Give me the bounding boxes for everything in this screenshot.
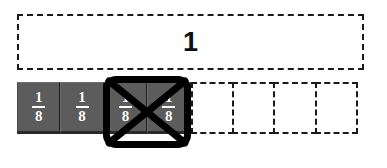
part-cell-7[interactable] (273, 82, 316, 134)
selection-box[interactable] (103, 76, 191, 148)
fraction-one-eighth: 1 8 (76, 90, 89, 125)
part-cell-5[interactable] (191, 82, 234, 134)
fraction-strip-model: 1 1 8 1 8 1 8 1 (0, 0, 387, 168)
part-cell-8[interactable] (315, 82, 358, 134)
numerator: 1 (78, 90, 86, 105)
part-cell-2[interactable]: 1 8 (60, 82, 103, 134)
part-cell-1[interactable]: 1 8 (17, 82, 60, 134)
part-cell-6[interactable] (232, 82, 275, 134)
denominator: 8 (35, 109, 43, 124)
whole-bar: 1 (17, 14, 364, 70)
numerator: 1 (35, 90, 43, 105)
fraction-one-eighth: 1 8 (32, 90, 45, 125)
denominator: 8 (78, 109, 86, 124)
whole-label: 1 (183, 29, 198, 56)
